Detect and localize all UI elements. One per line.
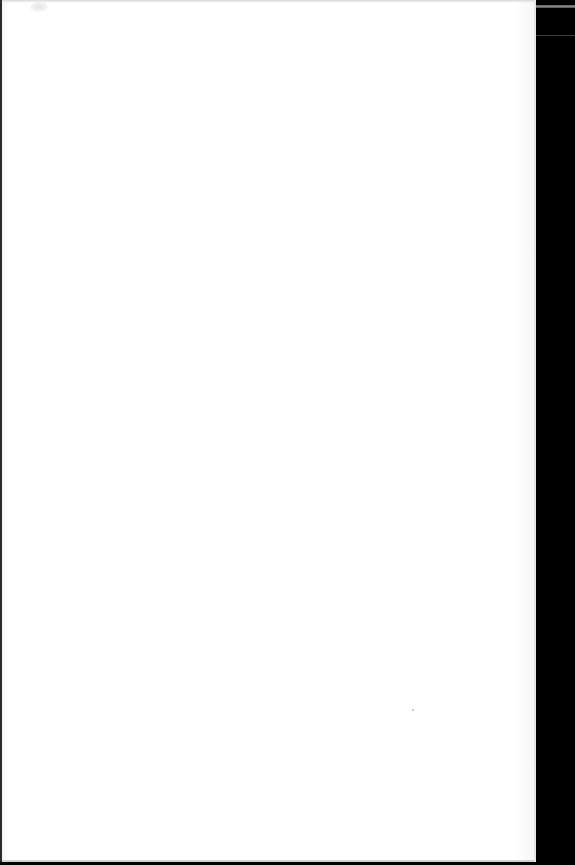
- page-bottom-edge: [2, 860, 536, 862]
- corner-smudge: [30, 2, 48, 12]
- scanned-document-scene: [0, 0, 575, 865]
- backdrop-faint-line: [536, 35, 575, 36]
- backdrop-highlight-line: [536, 5, 575, 8]
- dark-backdrop: [536, 0, 575, 865]
- page-top-shadow: [2, 0, 536, 3]
- blank-document-page: [0, 0, 536, 862]
- dust-speck: [412, 709, 414, 711]
